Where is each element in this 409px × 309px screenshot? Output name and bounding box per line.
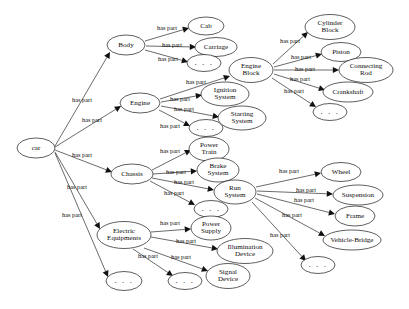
arrow-head-icon <box>94 222 100 229</box>
node-label: . . . <box>320 106 339 116</box>
node-connecting[interactable]: ConnectingRod <box>339 58 393 83</box>
node-electric[interactable]: ElectricEquipments <box>97 222 151 249</box>
edge-label: has part <box>279 167 299 174</box>
edge-label: has part <box>72 151 92 158</box>
edge-line <box>55 109 116 147</box>
edge-label: has part <box>160 122 180 129</box>
node-car-dots[interactable]: . . . <box>106 272 142 291</box>
node-carriage[interactable]: Carriage <box>195 38 237 57</box>
edge-label: has part <box>160 147 180 154</box>
edge-label: has part <box>82 116 102 123</box>
node-label: Suspension <box>342 191 375 199</box>
node-cylinder[interactable]: CylinderBlock <box>305 15 355 40</box>
node-label: Device <box>218 275 238 283</box>
node-signal[interactable]: SignalDevice <box>206 264 250 289</box>
edge-label: has part <box>170 95 190 102</box>
node-label: Crankshaft <box>332 88 363 96</box>
edge-label: has part <box>291 53 311 60</box>
node-label: Cab <box>200 22 212 30</box>
edge-line <box>256 174 315 187</box>
node-suspension[interactable]: Suspension <box>333 185 383 205</box>
node-engine[interactable]: Engine <box>120 93 160 113</box>
node-label: Engine <box>130 99 150 107</box>
has-part-ontology-diagram: carBodyEngineChassisElectricEquipments. … <box>0 0 409 309</box>
node-wheel[interactable]: Wheel <box>321 163 361 182</box>
node-label: Body <box>118 41 134 49</box>
edge-label: has part <box>296 186 316 193</box>
arrow-head-icon <box>223 75 230 81</box>
node-label: Equipments <box>107 234 141 242</box>
edge-label: has part <box>138 252 158 259</box>
node-ignition[interactable]: IgnitionSystem <box>201 82 249 106</box>
node-label: Rod <box>360 69 372 77</box>
node-engine-block[interactable]: EngineBlock <box>229 58 273 83</box>
node-label: . . . <box>114 275 133 285</box>
graph-canvas: carBodyEngineChassisElectricEquipments. … <box>0 0 409 309</box>
node-starting[interactable]: StartingSystem <box>218 106 266 130</box>
arrow-head-icon <box>191 168 197 174</box>
node-label: Device <box>235 250 255 258</box>
node-label: Block <box>243 69 260 77</box>
node-label: . . . <box>194 57 213 67</box>
node-run-system[interactable]: RunSystem <box>214 180 256 204</box>
node-crankshaft[interactable]: Crankshaft <box>323 82 373 102</box>
node-label: Chassis <box>121 170 143 178</box>
node-chassis-dots[interactable]: . . . <box>194 201 228 218</box>
arrow-head-icon <box>104 52 110 59</box>
edge-label: has part <box>294 196 314 203</box>
arrow-head-icon <box>333 67 339 73</box>
edge-label: has part <box>72 96 92 103</box>
arrow-head-icon <box>166 270 173 276</box>
edge-label: has part <box>280 37 300 44</box>
node-power-supply[interactable]: PowerSupply <box>191 216 231 240</box>
arrow-head-icon <box>328 209 335 215</box>
node-label: Supply <box>201 227 222 235</box>
node-body[interactable]: Body <box>107 35 145 55</box>
node-label: Vehicle-Bridge <box>331 236 374 244</box>
node-chassis[interactable]: Chassis <box>111 164 153 184</box>
node-label: . . . <box>196 122 215 132</box>
edge-line <box>152 153 185 170</box>
node-label: car <box>32 144 41 152</box>
node-eb-dots[interactable]: . . . <box>313 104 347 121</box>
node-run-dots[interactable]: . . . <box>301 257 335 274</box>
node-label: Piston <box>332 48 350 56</box>
node-label: System <box>232 117 253 125</box>
node-label: System <box>208 169 229 177</box>
edge-label: has part <box>162 41 182 48</box>
edge-label: has part <box>186 78 206 85</box>
edge-label: has part <box>166 168 186 175</box>
arrow-head-icon <box>114 106 121 112</box>
edge-label: has part <box>290 75 310 82</box>
edge-label: has part <box>295 65 315 72</box>
edge-label: has part <box>174 105 194 112</box>
node-power-train[interactable]: PowerTrain <box>189 137 229 161</box>
node-cab[interactable]: Cab <box>188 17 224 35</box>
edge-electric-to-power-supply <box>151 226 191 232</box>
edge-label: has part <box>171 253 191 260</box>
edge-label: has part <box>157 24 177 31</box>
node-label: . . . <box>175 275 194 285</box>
node-car[interactable]: car <box>17 138 55 158</box>
node-body-dots[interactable]: . . . <box>187 55 221 72</box>
edge-label: has part <box>160 219 180 226</box>
arrow-head-icon <box>185 226 191 232</box>
edge-label: has part <box>67 183 87 190</box>
edge-label: has part <box>164 189 184 196</box>
node-brake[interactable]: BrakeSystem <box>197 158 239 182</box>
edge-line <box>151 229 185 232</box>
edge-label: has part <box>174 178 194 185</box>
edge-label: has part <box>176 237 196 244</box>
node-label: Train <box>201 148 217 156</box>
node-illumination[interactable]: IlluminationDevice <box>217 239 273 264</box>
node-label: . . . <box>201 203 220 213</box>
edge-line <box>257 191 327 194</box>
node-frame[interactable]: Frame <box>335 206 375 226</box>
node-engine-dots[interactable]: . . . <box>189 120 223 137</box>
edge-car-to-engine <box>55 106 121 147</box>
edge-label: has part <box>158 55 178 62</box>
arrow-head-icon <box>207 186 214 192</box>
node-vehicle-bridge[interactable]: Vehicle-Bridge <box>323 230 381 250</box>
node-elec-dots[interactable]: . . . <box>168 273 202 290</box>
node-label: System <box>215 93 236 101</box>
